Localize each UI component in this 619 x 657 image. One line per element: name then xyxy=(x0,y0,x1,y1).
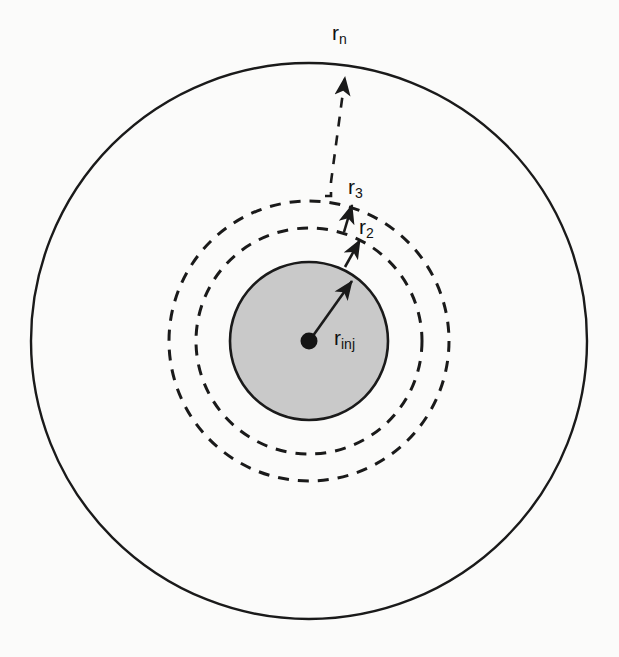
label-r-2-base: r xyxy=(359,215,366,238)
label-r-3: r3 xyxy=(348,176,363,197)
label-r-n-subscript: n xyxy=(339,31,347,47)
rn-leader xyxy=(325,77,345,196)
r2-leader xyxy=(345,240,360,267)
label-r-3-subscript: 3 xyxy=(355,185,363,201)
label-r-n-base: r xyxy=(332,21,339,44)
label-r-2-subscript: 2 xyxy=(366,225,374,241)
label-r-inj: rinj xyxy=(334,327,355,348)
label-r-inj-base: r xyxy=(334,326,341,349)
label-r-n: rn xyxy=(332,22,347,43)
label-r-2: r2 xyxy=(359,216,374,237)
label-r-inj-subscript: inj xyxy=(341,336,355,352)
diagram-canvas xyxy=(0,0,619,657)
injection-point xyxy=(301,333,318,350)
r3-leader xyxy=(344,205,352,232)
radial-zone-diagram: rn r3 r2 rinj xyxy=(0,0,619,657)
label-r-3-base: r xyxy=(348,175,355,198)
